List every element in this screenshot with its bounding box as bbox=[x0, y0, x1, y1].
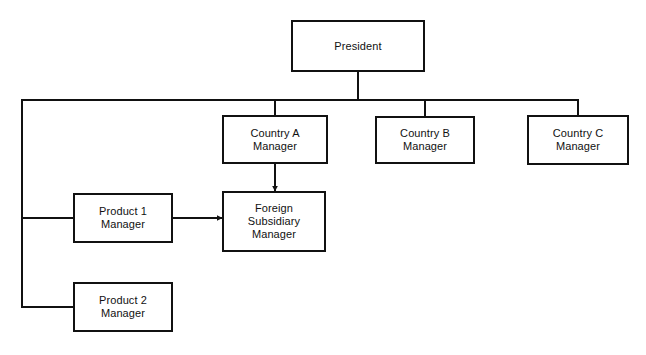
org-chart-svg bbox=[0, 0, 646, 355]
node-box-country_a bbox=[223, 116, 327, 163]
node-box-product_2 bbox=[74, 283, 172, 331]
node-box-country_b bbox=[376, 117, 474, 163]
node-box-country_c bbox=[528, 116, 628, 164]
connector-layer bbox=[22, 72, 578, 307]
node-box-foreign_subsidiary bbox=[223, 192, 325, 251]
org-chart-canvas: PresidentCountry A ManagerCountry B Mana… bbox=[0, 0, 646, 355]
box-layer bbox=[74, 21, 628, 331]
node-box-president bbox=[292, 21, 424, 71]
node-box-product_1 bbox=[74, 194, 172, 242]
